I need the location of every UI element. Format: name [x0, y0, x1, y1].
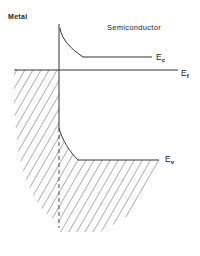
metal-label: Metal — [8, 13, 27, 20]
band-diagram — [0, 0, 200, 256]
valence-band-curve — [59, 128, 159, 160]
ev-subscript: v — [171, 159, 174, 165]
ev-label: Ev — [165, 154, 174, 165]
metal-filled-states-hatch — [0, 60, 60, 240]
ec-label: Ec — [156, 52, 165, 63]
semiconductor-label: Semiconductor — [107, 23, 161, 32]
ef-subscript: f — [187, 73, 189, 79]
conduction-band-curve — [60, 28, 152, 57]
valence-band-hatch — [55, 120, 175, 240]
ec-subscript: c — [162, 57, 165, 63]
ef-label: Ef — [181, 68, 189, 79]
